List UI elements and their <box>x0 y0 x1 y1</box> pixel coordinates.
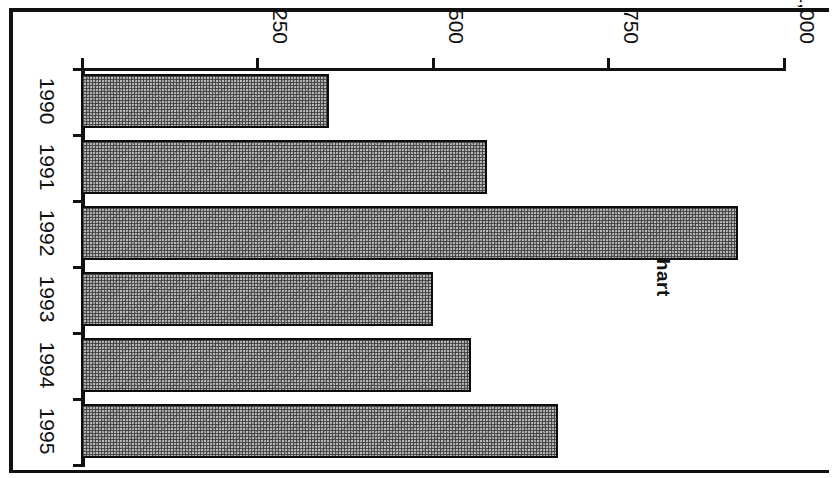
value-axis-label-250: 250 <box>269 9 293 44</box>
category-axis-label-1991: 1991 <box>35 132 59 202</box>
bar-1990 <box>81 74 329 128</box>
bar-1992 <box>81 206 738 260</box>
category-axis-label-1990: 1990 <box>35 66 59 136</box>
category-axis-label-1994: 1994 <box>35 330 59 400</box>
bar-1994 <box>81 338 471 392</box>
chart-figure: Bar Chart 1,000 750 500 250 <box>13 12 836 478</box>
page-border: Bar Chart 1,000 750 500 250 <box>9 8 829 473</box>
category-axis-tick-1990 <box>73 68 85 71</box>
bar-1993 <box>81 272 433 326</box>
category-axis-tick-1991 <box>73 134 85 137</box>
value-axis-label-500: 500 <box>444 9 468 44</box>
value-axis-tick-250 <box>257 58 260 71</box>
plot-area: 1,000 750 500 250 1990 1991 1992 <box>81 68 783 467</box>
rotated-figure: Bar Chart 1,000 750 500 250 <box>13 12 836 478</box>
category-axis-label-1995: 1995 <box>35 396 59 466</box>
value-axis-tick-500 <box>432 58 435 71</box>
value-axis-tick-1000 <box>783 58 786 71</box>
value-axis-label-750: 750 <box>620 9 644 44</box>
category-axis-tick-end <box>73 464 85 467</box>
value-axis-tick-750 <box>608 58 611 71</box>
bar-1995 <box>81 404 558 458</box>
category-axis-label-1992: 1992 <box>35 198 59 268</box>
category-axis-tick-1994 <box>73 332 85 335</box>
category-axis-label-1993: 1993 <box>35 264 59 334</box>
scanned-page: Bar Chart 1,000 750 500 250 <box>0 0 836 478</box>
value-axis-label-1000: 1,000 <box>795 0 819 44</box>
category-axis-tick-1993 <box>73 266 85 269</box>
category-axis-tick-1992 <box>73 200 85 203</box>
bar-1991 <box>81 140 487 194</box>
category-axis-tick-1995 <box>73 398 85 401</box>
